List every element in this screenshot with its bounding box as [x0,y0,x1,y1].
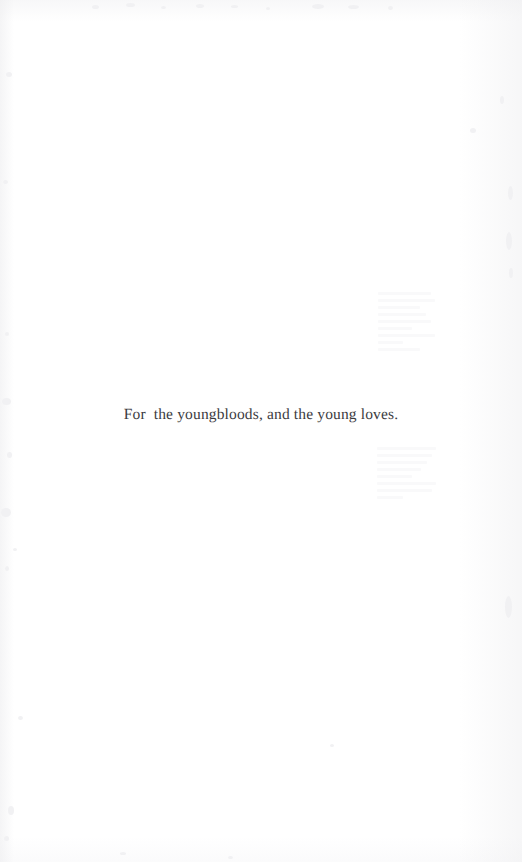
page-showthrough-ghost-lower [377,447,441,513]
page-showthrough-ghost-upper [378,292,440,378]
dedication-text-block: For the youngbloods, and the young loves… [0,405,522,425]
paper-shading [0,0,522,862]
dedication-line: For the youngbloods, and the young loves… [124,405,399,425]
scan-speckles [0,0,522,862]
dedication-page: For the youngbloods, and the young loves… [0,0,522,862]
